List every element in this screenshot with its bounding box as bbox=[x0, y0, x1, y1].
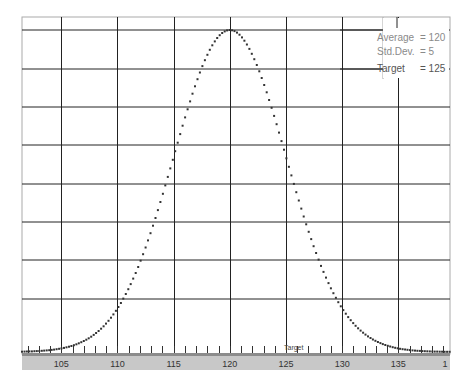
curve-point bbox=[303, 216, 305, 218]
curve-point bbox=[21, 351, 23, 353]
curve-point bbox=[426, 350, 428, 352]
curve-point bbox=[345, 313, 347, 315]
curve-point bbox=[155, 217, 157, 219]
curve-point bbox=[93, 334, 95, 336]
curve-point bbox=[434, 351, 436, 353]
curve-point bbox=[374, 340, 376, 342]
curve-point bbox=[204, 59, 206, 61]
curve-point bbox=[137, 266, 139, 268]
curve-point bbox=[355, 325, 357, 327]
target-marker-label: Target bbox=[284, 344, 304, 352]
curve-point bbox=[379, 342, 381, 344]
curve-point bbox=[310, 238, 312, 240]
curve-point bbox=[399, 348, 401, 350]
curve-point bbox=[352, 322, 354, 324]
curve-point bbox=[169, 167, 171, 169]
curve-point bbox=[392, 346, 394, 348]
curve-point bbox=[164, 184, 166, 186]
curve-point bbox=[187, 108, 189, 110]
curve-point bbox=[152, 225, 154, 227]
curve-point bbox=[100, 328, 102, 330]
x-axis-band bbox=[22, 353, 450, 356]
curve-point bbox=[441, 351, 443, 353]
curve-point bbox=[88, 337, 90, 339]
curve-point bbox=[201, 65, 203, 67]
curve-point bbox=[58, 348, 60, 350]
curve-point bbox=[436, 351, 438, 353]
x-tick-label: 105 bbox=[54, 359, 69, 369]
curve-point bbox=[209, 49, 211, 51]
curve-point bbox=[167, 176, 169, 178]
legend-average-value: = 120 bbox=[420, 32, 446, 43]
curve-point bbox=[24, 351, 26, 353]
curve-point bbox=[365, 334, 367, 336]
curve-point bbox=[108, 320, 110, 322]
curve-point bbox=[414, 350, 416, 352]
curve-point bbox=[370, 337, 372, 339]
curve-point bbox=[234, 30, 236, 32]
curve-point bbox=[389, 346, 391, 348]
curve-point bbox=[372, 339, 374, 341]
curve-point bbox=[243, 40, 245, 42]
curve-point bbox=[172, 159, 174, 161]
curve-point bbox=[105, 323, 107, 325]
curve-point bbox=[305, 223, 307, 225]
curve-point bbox=[318, 259, 320, 261]
curve-point bbox=[416, 350, 418, 352]
curve-point bbox=[75, 343, 77, 345]
curve-point bbox=[130, 283, 132, 285]
curve-point bbox=[157, 209, 159, 211]
curve-point bbox=[429, 350, 431, 352]
curve-point bbox=[253, 58, 255, 60]
curve-point bbox=[340, 305, 342, 307]
curve-point bbox=[278, 132, 280, 134]
curve-point bbox=[127, 288, 129, 290]
curve-point bbox=[332, 292, 334, 294]
curve-point bbox=[360, 330, 362, 332]
curve-point bbox=[179, 133, 181, 135]
curve-point bbox=[293, 183, 295, 185]
curve-point bbox=[226, 29, 228, 31]
legend-target-value: = 125 bbox=[420, 63, 446, 74]
curve-point bbox=[315, 252, 317, 254]
curve-point bbox=[241, 36, 243, 38]
curve-point bbox=[283, 149, 285, 151]
legend-stddev-value: = 5 bbox=[420, 46, 435, 57]
curve-point bbox=[350, 319, 352, 321]
curve-point bbox=[63, 347, 65, 349]
curve-point bbox=[90, 336, 92, 338]
legend-stddev-label: Std.Dev. bbox=[377, 46, 415, 57]
curve-point bbox=[216, 37, 218, 39]
x-tick-label: 115 bbox=[166, 359, 180, 369]
curve-point bbox=[246, 44, 248, 46]
curve-point bbox=[273, 115, 275, 117]
curve-point bbox=[132, 278, 134, 280]
curve-point bbox=[83, 340, 85, 342]
curve-point bbox=[424, 350, 426, 352]
x-tick-label: 120 bbox=[222, 359, 237, 369]
curve-point bbox=[115, 310, 117, 312]
curve-point bbox=[120, 302, 122, 304]
curve-point bbox=[192, 93, 194, 95]
curve-point bbox=[298, 200, 300, 202]
curve-point bbox=[404, 349, 406, 351]
curve-point bbox=[211, 44, 213, 46]
curve-point bbox=[26, 351, 28, 353]
curve-point bbox=[337, 301, 339, 303]
curve-point bbox=[219, 34, 221, 36]
curve-point bbox=[271, 107, 273, 109]
curve-point bbox=[412, 349, 414, 351]
curve-point bbox=[313, 245, 315, 247]
curve-point bbox=[206, 54, 208, 56]
curve-point bbox=[142, 253, 144, 255]
curve-point bbox=[325, 277, 327, 279]
x-tick-label: 125 bbox=[278, 359, 293, 369]
curve-point bbox=[449, 351, 451, 353]
curve-point bbox=[174, 150, 176, 152]
curve-point bbox=[184, 116, 186, 118]
curve-point bbox=[85, 339, 87, 341]
curve-point bbox=[41, 350, 43, 352]
curve-point bbox=[189, 100, 191, 102]
curve-point bbox=[112, 313, 114, 315]
curve-point bbox=[281, 140, 283, 142]
